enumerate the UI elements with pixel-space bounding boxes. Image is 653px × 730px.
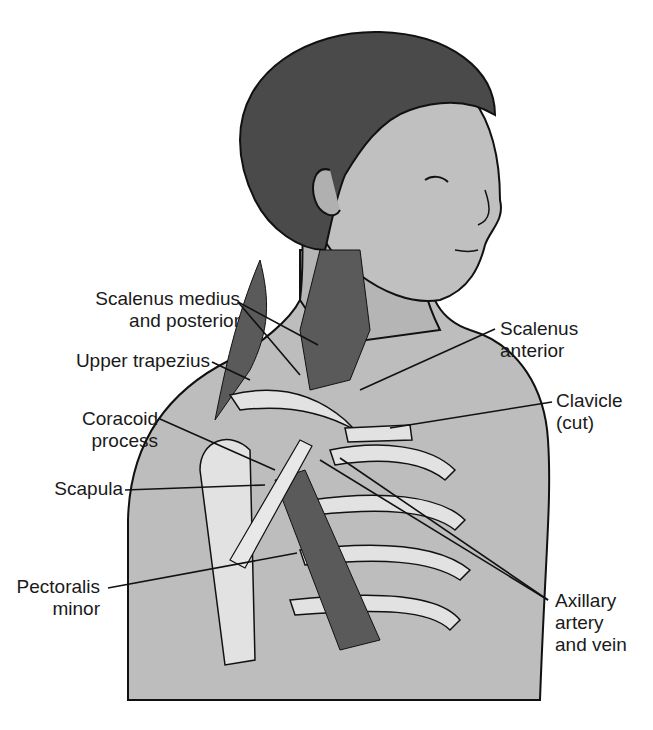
label-line: minor — [0, 598, 100, 620]
label-upper-trapezius: Upper trapezius — [20, 350, 210, 372]
label-scapula: Scapula — [20, 478, 123, 500]
label-line: Clavicle — [556, 390, 623, 412]
label-axillary-artery-vein: Axillary artery and vein — [555, 590, 627, 656]
label-line: Upper trapezius — [20, 350, 210, 372]
label-line: artery — [555, 612, 627, 634]
label-line: Scalenus medius — [50, 288, 240, 310]
label-scalenus-medius: Scalenus medius and posterior — [50, 288, 240, 332]
label-line: Scalenus — [500, 318, 578, 340]
label-line: Axillary — [555, 590, 627, 612]
label-clavicle-cut: Clavicle (cut) — [556, 390, 623, 434]
label-line: Coracoid — [40, 408, 158, 430]
label-line: and posterior — [50, 310, 240, 332]
label-line: anterior — [500, 340, 578, 362]
label-line: process — [40, 430, 158, 452]
label-coracoid-process: Coracoid process — [40, 408, 158, 452]
label-line: (cut) — [556, 412, 623, 434]
label-line: Pectoralis — [0, 576, 100, 598]
label-line: and vein — [555, 634, 627, 656]
clavicle-cut-end — [345, 425, 412, 442]
label-pectoralis-minor: Pectoralis minor — [0, 576, 100, 620]
label-line: Scapula — [20, 478, 123, 500]
label-scalenus-anterior: Scalenus anterior — [500, 318, 578, 362]
